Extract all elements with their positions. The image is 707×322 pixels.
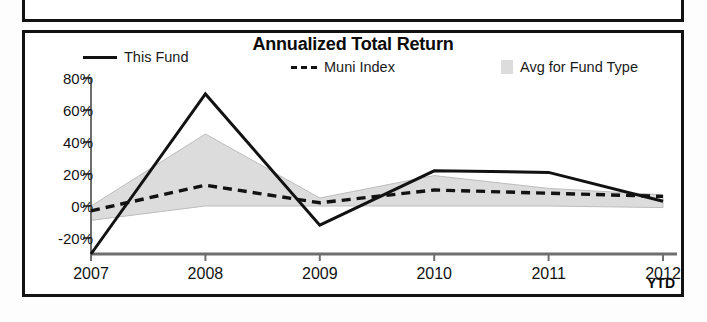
chart-screenshot: Annualized Total Return This Fund Muni I… xyxy=(0,0,707,322)
plot-area xyxy=(25,33,681,294)
x-axis-tick-labels: 200720082009201020112012 xyxy=(25,265,681,291)
y-axis-tick--20: -20% xyxy=(58,230,93,247)
x-axis-tick-2010: 2010 xyxy=(416,265,452,283)
chart-canvas xyxy=(25,33,681,294)
adjacent-panel-bottom-edge xyxy=(22,0,684,22)
x-axis-tick-2011: 2011 xyxy=(531,265,565,283)
x-axis-tick-2007: 2007 xyxy=(73,265,109,283)
x-axis-tick-2009: 2009 xyxy=(302,265,338,283)
x-axis-tick-2008: 2008 xyxy=(188,265,224,283)
y-axis-tick-labels: -20%0%20%40%60%80% xyxy=(31,33,93,294)
y-axis-tick-40: 40% xyxy=(63,134,93,151)
y-axis-tick-20: 20% xyxy=(63,166,93,183)
y-axis-tick-80: 80% xyxy=(63,70,93,87)
y-axis-tick-0: 0% xyxy=(71,198,93,215)
y-axis-tick-60: 60% xyxy=(63,102,93,119)
x-axis-ytd-label: YTD xyxy=(647,275,675,291)
annualized-total-return-panel: Annualized Total Return This Fund Muni I… xyxy=(22,30,684,297)
